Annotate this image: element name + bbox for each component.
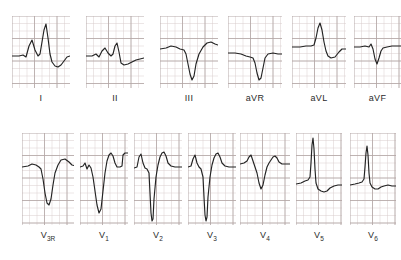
ecg-trace-v5 [296, 138, 342, 192]
ecg-trace-v6 [350, 146, 396, 189]
lead-label-main: aVL [311, 93, 328, 103]
lead-label-subscript: 3R [47, 235, 55, 242]
ecg-grid-v2 [134, 133, 182, 225]
lead-label-subscript: 3 [213, 235, 217, 242]
ecg-panel-avl [292, 16, 346, 88]
ecg-grid-v5 [296, 133, 342, 225]
lead-label-subscript: 1 [105, 235, 109, 242]
ecg-grid-avr [228, 16, 282, 88]
lead-label-main: II [112, 93, 118, 103]
ecg-panel-ii [86, 16, 144, 88]
ecg-grid-v3r [22, 133, 74, 225]
ecg-panel-avr [228, 16, 282, 88]
lead-label-main: I [40, 93, 43, 103]
ecg-grid-v3 [188, 133, 236, 225]
lead-label-subscript: 4 [266, 235, 270, 242]
lead-label-avf: aVF [342, 94, 401, 103]
ecg-grid-iii [160, 16, 218, 88]
ecg-trace-i [12, 24, 70, 67]
ecg-trace-ii [86, 43, 144, 65]
ecg-grid-i [12, 16, 70, 88]
ecg-trace-v1 [80, 153, 128, 213]
ecg-panel-v4 [240, 133, 290, 225]
lead-label-main: aVR [246, 93, 264, 103]
ecg-panel-i [12, 16, 70, 88]
ecg-panel-v5 [296, 133, 342, 225]
lead-label-v6: V6 [338, 231, 401, 242]
ecg-panel-v3 [188, 133, 236, 225]
ecg-grid-v6 [350, 133, 396, 225]
ecg-trace-avl [292, 23, 346, 58]
ecg-panel-v2 [134, 133, 182, 225]
ecg-grid-ii [86, 16, 144, 88]
lead-label-i: I [0, 94, 82, 103]
ecg-panel-v6 [350, 133, 396, 225]
ecg-panel-avf [354, 16, 401, 88]
ecg-grid-v1 [80, 133, 128, 225]
ecg-figure: IIIIIIaVRaVLaVFV3RV1V2V3V4V5V6 [0, 0, 401, 260]
ecg-grid-avf [354, 16, 401, 88]
lead-label-subscript: 2 [159, 235, 163, 242]
lead-label-ii: II [74, 94, 156, 103]
ecg-panel-v1 [80, 133, 128, 225]
ecg-trace-v3r [22, 159, 74, 205]
ecg-panel-iii [160, 16, 218, 88]
ecg-grid-avl [292, 16, 346, 88]
lead-label-main: III [185, 93, 193, 103]
ecg-grid-v4 [240, 133, 290, 225]
ecg-trace-v2 [134, 152, 182, 221]
lead-label-subscript: 6 [374, 235, 378, 242]
lead-label-subscript: 5 [320, 235, 324, 242]
ecg-panel-v3r [22, 133, 74, 225]
lead-label-main: aVF [369, 93, 386, 103]
